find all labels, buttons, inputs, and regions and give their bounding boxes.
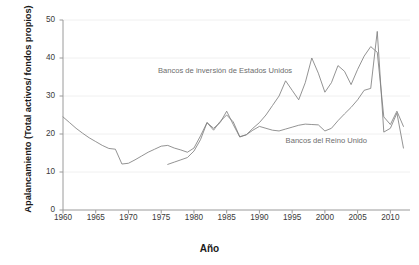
plot-area (0, 0, 419, 265)
series-line-0 (168, 47, 404, 165)
chart-figure: Apalancamiento (Total activos/ fondos pr… (0, 0, 419, 265)
series-label-1: Bancos del Reino Unido (286, 136, 367, 145)
series-label-0: Bancos de inversión de Estados Unidos (158, 66, 292, 75)
